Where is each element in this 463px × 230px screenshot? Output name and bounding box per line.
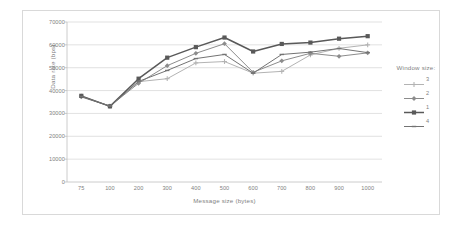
legend: Window size: 3214: [393, 63, 439, 128]
series-line-4: [81, 49, 367, 107]
data-point-marker: [193, 51, 198, 56]
y-axis-tick-label: 30000: [49, 110, 65, 116]
x-axis-tick-label: 75: [78, 185, 84, 191]
x-axis-tick-labels: 751002003004005006007008009001000: [67, 185, 382, 197]
legend-label: 2: [426, 91, 429, 97]
y-axis-tick-labels: 010000200003000040000500006000070000: [43, 22, 65, 182]
data-point-marker: [279, 69, 284, 74]
data-point-marker: [412, 110, 416, 114]
series-lines: [67, 22, 382, 182]
chart-figure: Data rate (bps) 010000200003000040000500…: [0, 0, 463, 230]
data-point-marker: [412, 82, 417, 87]
y-axis-tick-label: 60000: [49, 42, 65, 48]
legend-item-4[interactable]: 4: [393, 114, 439, 128]
x-axis-tick-label: 800: [306, 185, 316, 191]
legend-item-1[interactable]: 1: [393, 100, 439, 114]
x-axis-tick-label: 700: [277, 185, 287, 191]
plot-area: [67, 22, 382, 182]
data-point-marker: [412, 96, 417, 101]
series-line-2: [81, 44, 367, 106]
legend-swatch-icon: [403, 117, 425, 126]
data-point-marker: [165, 56, 169, 60]
data-point-marker: [222, 59, 227, 64]
data-point-marker: [366, 34, 370, 38]
legend-swatch-icon: [403, 75, 425, 84]
data-point-marker: [165, 63, 170, 68]
legend-label: 3: [426, 77, 429, 83]
chart-plot-frame: Data rate (bps) 010000200003000040000500…: [22, 10, 440, 215]
y-axis-tick-label: 10000: [49, 156, 65, 162]
data-point-marker: [308, 40, 312, 44]
y-axis-tick-label: 50000: [49, 65, 65, 71]
x-axis-tick-label: 1000: [361, 185, 374, 191]
y-axis-tick-label: 40000: [49, 88, 65, 94]
data-point-marker: [165, 76, 170, 81]
x-axis-tick-label: 200: [134, 185, 144, 191]
x-axis-tick-label: 900: [334, 185, 344, 191]
x-axis-tick-label: 100: [105, 185, 115, 191]
data-point-marker: [365, 42, 370, 47]
legend-item-2[interactable]: 2: [393, 86, 439, 100]
data-point-marker: [222, 35, 226, 39]
x-axis-tick-label: 400: [191, 185, 201, 191]
legend-items: 3214: [393, 72, 439, 128]
legend-label: 1: [426, 105, 429, 111]
legend-swatch-icon: [403, 89, 425, 98]
x-axis-tick-label: 600: [248, 185, 258, 191]
data-point-marker: [194, 45, 198, 49]
data-point-marker: [279, 58, 284, 63]
y-axis-tick-label: 20000: [49, 133, 65, 139]
legend-swatch-icon: [403, 103, 425, 112]
legend-item-3[interactable]: 3: [393, 72, 439, 86]
data-point-marker: [337, 54, 342, 59]
x-axis-title: Message size (bytes): [67, 197, 382, 204]
data-point-marker: [193, 61, 198, 66]
legend-label: 4: [426, 119, 429, 125]
data-point-marker: [280, 42, 284, 46]
legend-title: Window size:: [393, 63, 439, 72]
data-point-marker: [251, 49, 255, 53]
series-line-1: [81, 36, 367, 106]
y-axis-tick-label: 70000: [49, 19, 65, 25]
x-axis-tick-label: 300: [162, 185, 172, 191]
data-point-marker: [337, 37, 341, 41]
x-axis-tick-label: 500: [220, 185, 230, 191]
data-point-marker: [136, 77, 140, 81]
